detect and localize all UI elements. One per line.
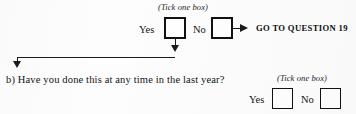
sub-question-option-label-yes: Yes — [249, 95, 264, 106]
yes-flow-horizontal-line — [17, 57, 175, 58]
questionnaire-page: (Tick one box) Yes No GO TO QUESTION 19 … — [0, 0, 356, 114]
branch-checkbox-no[interactable] — [211, 17, 233, 39]
branch-checkbox-yes[interactable] — [164, 17, 186, 39]
branch-option-label-no: No — [193, 25, 206, 36]
sub-question-text: b) Have you done this at any time in the… — [6, 75, 224, 86]
arrow-down-icon-lower — [13, 61, 21, 68]
tick-one-box-hint-top: (Tick one box) — [158, 3, 208, 12]
sub-question-checkbox-no[interactable] — [320, 88, 341, 109]
goto-question-instruction: GO TO QUESTION 19 — [256, 24, 348, 33]
arrow-down-icon-upper — [171, 45, 179, 52]
branch-option-label-yes: Yes — [139, 25, 154, 36]
sub-question-option-label-no: No — [301, 95, 314, 106]
arrow-right-icon — [240, 24, 248, 32]
tick-one-box-hint-bottom: (Tick one box) — [277, 74, 327, 83]
sub-question-checkbox-yes[interactable] — [272, 88, 293, 109]
